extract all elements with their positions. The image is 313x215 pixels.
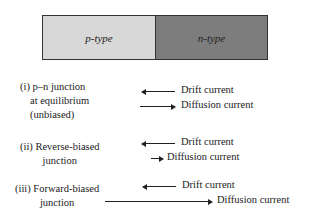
drift-label: Drift current	[181, 135, 234, 149]
diffusion-arrow-icon	[105, 201, 212, 202]
diffusion-arrow-icon	[151, 158, 163, 159]
case-1-label: (i) p–n junction at equilibrium (unbiase…	[20, 80, 89, 122]
p-type-region: p-type	[42, 15, 156, 60]
drift-label: Drift current	[182, 178, 235, 192]
n-type-label: n-type	[198, 32, 225, 44]
drift-arrow-icon	[142, 143, 175, 144]
diffusion-label: Diffusion current	[167, 150, 239, 164]
p-type-label: p-type	[85, 32, 112, 44]
case-3-label: (iii) Forward-biased junction	[15, 182, 99, 210]
diffusion-label: Diffusion current	[181, 98, 253, 112]
drift-label: Drift current	[181, 83, 234, 97]
diffusion-arrow-icon	[140, 106, 175, 107]
diffusion-label: Diffusion current	[217, 193, 289, 207]
n-type-region: n-type	[155, 15, 268, 60]
pn-junction-diagram: p-type n-type (i) p–n junction at equili…	[0, 0, 313, 215]
drift-arrow-icon	[142, 91, 175, 92]
drift-arrow-icon	[143, 186, 176, 187]
case-2-label: (ii) Reverse-biased junction	[20, 140, 100, 168]
